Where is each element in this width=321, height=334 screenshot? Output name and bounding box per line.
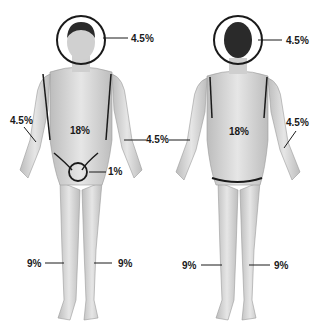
back-right-leg-label: 9%	[274, 261, 288, 271]
front-head-label: 4.5%	[131, 34, 154, 44]
back-figure	[169, 16, 300, 320]
rule-of-nines-diagram: 4.5% 4.5% 18% 4.5% 1% 9% 9% 4.5% 18% 4.5…	[0, 0, 321, 334]
front-left-arm-label: 4.5%	[10, 116, 33, 126]
arm-shared-label: 4.5%	[146, 135, 169, 145]
back-right-arm-label: 4.5%	[286, 118, 309, 128]
front-genital-label: 1%	[108, 167, 122, 177]
back-head-label: 4.5%	[286, 36, 309, 46]
front-left-leg-label: 9%	[27, 259, 41, 269]
body-figures	[0, 0, 321, 334]
front-torso-label: 18%	[70, 126, 90, 136]
back-torso-label: 18%	[229, 127, 249, 137]
front-right-leg-label: 9%	[118, 259, 132, 269]
back-left-leg-label: 9%	[182, 261, 196, 271]
front-figure	[20, 16, 146, 320]
